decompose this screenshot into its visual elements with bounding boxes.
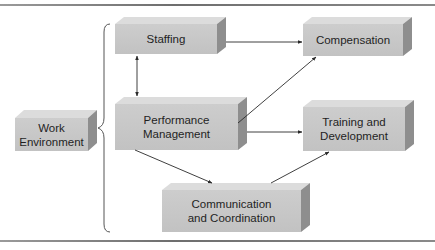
- edge-communication-training: [271, 152, 329, 183]
- node-compensation: Compensation: [303, 24, 403, 56]
- grouping-brace: [98, 24, 110, 232]
- edge-performance-communication: [135, 150, 212, 183]
- node-label: Performance Management: [143, 113, 210, 141]
- node-label: Training and Development: [320, 115, 388, 143]
- node-label: Communication and Coordination: [188, 197, 276, 225]
- node-performance-management: Performance Management: [115, 104, 238, 150]
- node-label: Staffing: [147, 32, 186, 46]
- node-staffing: Staffing: [115, 24, 217, 54]
- node-label: Compensation: [316, 33, 390, 47]
- node-training-development: Training and Development: [303, 107, 405, 151]
- node-label: Work Environment: [19, 121, 84, 149]
- node-communication-coordination: Communication and Coordination: [162, 190, 301, 232]
- node-work-environment: Work Environment: [15, 118, 88, 151]
